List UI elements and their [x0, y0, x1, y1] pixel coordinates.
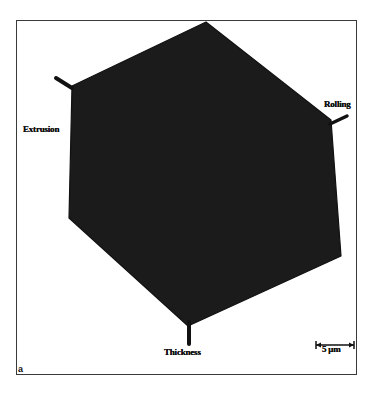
- grain-diagram: [0, 0, 375, 393]
- extrusion-axis-label: Extrusion: [23, 124, 59, 134]
- extrusion-axis-marker: [56, 78, 72, 88]
- hexagonal-grain: [69, 22, 341, 326]
- rolling-axis-marker: [330, 116, 347, 124]
- scale-bar-label: 5 μm: [322, 344, 341, 354]
- panel-label: a: [18, 364, 23, 374]
- thickness-axis-label: Thickness: [164, 347, 201, 357]
- rolling-axis-label: Rolling: [324, 99, 351, 109]
